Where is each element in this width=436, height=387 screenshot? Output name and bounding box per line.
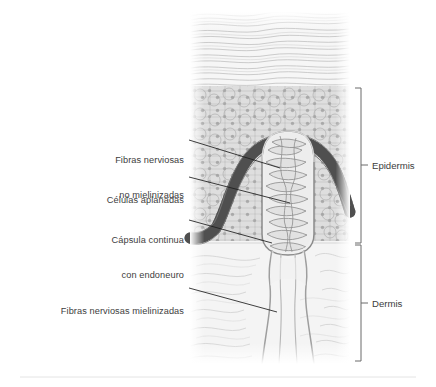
callout-line: Fibras nerviosas mielinizadas xyxy=(18,306,184,318)
bracket-label-dermis: Dermis xyxy=(372,298,402,310)
anatomy-figure: Fibras nerviosas no mielinizadas Células… xyxy=(0,0,436,387)
bracket-epidermis xyxy=(355,88,368,243)
tissue-panel xyxy=(190,12,350,364)
callout-line: Cápsula continua xyxy=(70,235,184,247)
region-brackets xyxy=(355,88,368,361)
bracket-label-epidermis: Epidermis xyxy=(372,160,415,172)
bracket-dermis xyxy=(355,245,368,361)
callout-line: con endoneuro xyxy=(70,270,184,282)
callout-line: Fibras nerviosas xyxy=(80,155,184,167)
callout-line: Células aplanadas xyxy=(80,195,184,207)
callout-fibras-mielinizadas: Fibras nerviosas mielinizadas xyxy=(18,283,184,341)
panel-edge-fade-y xyxy=(190,12,350,364)
